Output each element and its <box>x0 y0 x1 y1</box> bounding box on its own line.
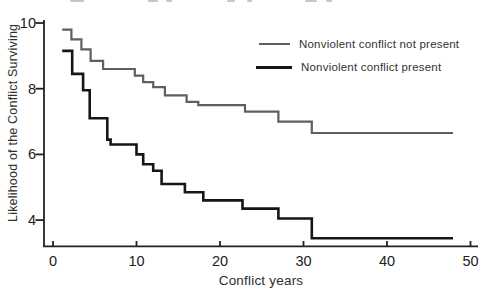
x-tick-label: 10 <box>117 253 157 270</box>
x-tick-label: 40 <box>367 253 407 270</box>
x-tick-label: 30 <box>284 253 324 270</box>
legend-item-nonviolent-not-present: Nonviolent conflict not present <box>259 38 459 50</box>
x-tick-label: 50 <box>451 253 490 270</box>
y-axis-label: Likelihood of the Conflict Surviving <box>6 46 22 222</box>
x-axis-label: Conflict years <box>188 273 334 288</box>
legend-item-nonviolent-present: Nonviolent conflict present <box>256 61 441 73</box>
y-tick-label: 4 <box>2 212 36 228</box>
legend-line-swatch-black <box>256 66 292 69</box>
legend-label: Nonviolent conflict present <box>301 61 441 73</box>
y-tick-label: 10 <box>2 15 36 31</box>
x-tick-label: 0 <box>33 253 73 270</box>
y-tick-label: 6 <box>2 146 36 162</box>
x-tick-label: 20 <box>200 253 240 270</box>
survival-curve-figure: Likelihood of the Conflict Surviving 10 … <box>0 0 490 294</box>
legend-label: Nonviolent conflict not present <box>299 38 459 50</box>
y-tick-label: 8 <box>2 81 36 97</box>
legend-line-swatch-gray <box>259 43 290 46</box>
